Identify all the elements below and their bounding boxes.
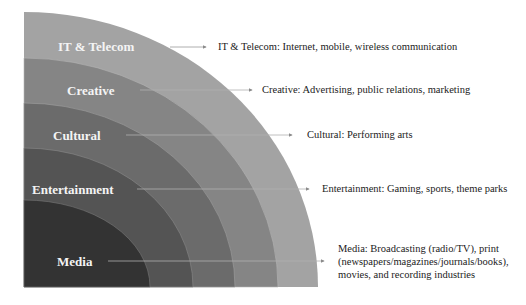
description-cultural: Cultural: Performing arts [307, 128, 413, 141]
label-entertainment: Entertainment [32, 182, 114, 197]
description-media-line-3: movies, and recording industries [338, 268, 509, 281]
label-it-telecom: IT & Telecom [58, 39, 134, 54]
description-media-line-2: (newspapers/magazines/journals/books), [338, 255, 509, 268]
description-entertainment: Entertainment: Gaming, sports, theme par… [322, 182, 507, 195]
description-media-line-1: Media: Broadcasting (radio/TV), print [338, 242, 509, 255]
label-media: Media [57, 254, 93, 269]
description-it-telecom: IT & Telecom: Internet, mobile, wireless… [218, 40, 457, 53]
description-creative: Creative: Advertising, public relations,… [262, 83, 470, 96]
label-creative: Creative [67, 83, 115, 98]
description-media: Media: Broadcasting (radio/TV), print (n… [338, 242, 509, 281]
label-cultural: Cultural [53, 128, 101, 143]
